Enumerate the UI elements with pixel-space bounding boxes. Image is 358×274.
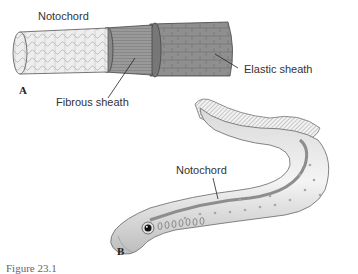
- label-elastic-sheath: Elastic sheath: [244, 63, 312, 75]
- panel-letter-b: B: [117, 245, 124, 257]
- label-notochord-b: Notochord: [176, 164, 227, 176]
- larva-illustration: [111, 99, 329, 254]
- figure-caption: Figure 23.1: [6, 262, 57, 274]
- notochord-cylinder: [13, 22, 238, 98]
- label-notochord-a: Notochord: [38, 10, 89, 22]
- label-fibrous-sheath: Fibrous sheath: [56, 96, 129, 108]
- panel-letter-a: A: [19, 84, 27, 96]
